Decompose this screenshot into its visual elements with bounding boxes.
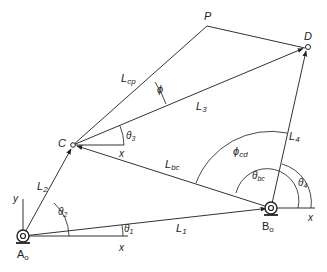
label-l2: L2	[37, 180, 48, 194]
label-d: D	[304, 30, 312, 42]
label-y-axis: y	[12, 193, 19, 204]
arc-theta3	[120, 126, 124, 145]
label-c: C	[58, 137, 66, 149]
label-x-axis-c: x	[118, 148, 125, 159]
label-theta4: θ4	[298, 177, 307, 189]
label-l1: L1	[176, 222, 187, 236]
label-theta-bc: θbc	[252, 170, 265, 182]
arc-theta1	[122, 225, 123, 236]
label-theta1: θ1	[124, 223, 133, 235]
joint-c	[71, 143, 76, 148]
label-l4: L4	[289, 130, 300, 144]
label-x-axis-b0: x	[307, 212, 314, 223]
joint-d	[306, 45, 311, 50]
label-p: P	[204, 10, 212, 22]
label-theta3: θ3	[126, 130, 135, 142]
four-bar-linkage-diagram: Ao Bo C D P L1 L2 L3 L4 Lbc Lcp θ1 θ2 θ3…	[0, 0, 327, 272]
label-a0: Ao	[17, 248, 29, 262]
link-l3	[73, 49, 303, 146]
arc-theta-bc	[236, 169, 299, 208]
link-pd	[207, 26, 305, 48]
pivot-b0	[264, 202, 278, 215]
label-phi: ϕ	[157, 83, 163, 95]
label-phi-cd: ϕcd	[233, 145, 248, 159]
label-lbc: Lbc	[165, 158, 180, 172]
label-theta2: θ2	[58, 206, 67, 218]
label-l3: L3	[196, 100, 207, 114]
link-lcp	[73, 26, 207, 145]
pivot-a0	[16, 230, 30, 243]
label-x-axis-a0: x	[118, 242, 125, 253]
label-b0: Bo	[262, 220, 274, 234]
label-lcp: Lcp	[121, 72, 136, 86]
